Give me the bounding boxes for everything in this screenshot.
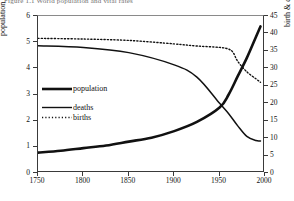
right-tick-mark-5 <box>264 155 268 156</box>
right-tick-mark-45 <box>264 15 268 16</box>
right-tick-label-30: 30 <box>270 63 286 72</box>
left-tick-mark-6 <box>33 15 37 16</box>
left-tick-label-5: 5 <box>16 37 30 46</box>
right-tick-mark-10 <box>264 137 268 138</box>
left-tick-mark-2 <box>33 120 37 121</box>
series-line-deaths <box>38 46 260 141</box>
plot-area <box>37 15 264 172</box>
x-tick-mark-1750 <box>37 172 38 176</box>
left-tick-label-1: 1 <box>16 141 30 150</box>
x-tick-mark-2000 <box>264 172 265 176</box>
right-tick-mark-30 <box>264 67 268 68</box>
right-tick-label-45: 45 <box>270 11 286 20</box>
right-tick-label-15: 15 <box>270 115 286 124</box>
right-tick-label-20: 20 <box>270 98 286 107</box>
left-tick-label-2: 2 <box>16 115 30 124</box>
left-tick-mark-4 <box>33 67 37 68</box>
right-tick-mark-35 <box>264 50 268 51</box>
x-tick-label-1750: 1750 <box>22 176 52 185</box>
right-tick-label-5: 5 <box>270 150 286 159</box>
legend-swatch-population <box>42 86 72 92</box>
x-tick-mark-1850 <box>128 172 129 176</box>
legend-label-population: population <box>73 84 107 93</box>
right-tick-mark-40 <box>264 32 268 33</box>
x-tick-label-1850: 1850 <box>113 176 143 185</box>
left-tick-mark-5 <box>33 41 37 42</box>
x-tick-label-1900: 1900 <box>158 176 188 185</box>
x-tick-label-1950: 1950 <box>204 176 234 185</box>
chart-figure: Figure 1.1 World population and vital ra… <box>0 0 294 201</box>
x-tick-label-1800: 1800 <box>67 176 97 185</box>
left-tick-mark-1 <box>33 146 37 147</box>
x-tick-mark-1800 <box>82 172 83 176</box>
right-tick-mark-20 <box>264 102 268 103</box>
x-tick-mark-1950 <box>219 172 220 176</box>
left-tick-label-6: 6 <box>16 11 30 20</box>
left-tick-label-4: 4 <box>16 63 30 72</box>
right-tick-label-40: 40 <box>270 28 286 37</box>
right-tick-label-35: 35 <box>270 45 286 54</box>
left-axis-label: population (in billions ) <box>0 0 7 52</box>
series-line-births <box>38 38 260 82</box>
x-tick-mark-1900 <box>173 172 174 176</box>
legend-label-deaths: deaths <box>73 103 93 112</box>
right-tick-label-25: 25 <box>270 80 286 89</box>
legend-label-births: births <box>73 113 91 122</box>
x-tick-label-2000: 2000 <box>249 176 279 185</box>
legend-swatch-births <box>42 115 72 120</box>
left-tick-label-3: 3 <box>16 89 30 98</box>
legend-swatch-deaths <box>42 105 72 110</box>
clipped-figure-caption: Figure 1.1 World population and vital ra… <box>4 0 244 5</box>
right-tick-mark-15 <box>264 120 268 121</box>
right-tick-mark-25 <box>264 85 268 86</box>
left-tick-mark-3 <box>33 94 37 95</box>
series-canvas <box>38 16 265 173</box>
right-tick-label-10: 10 <box>270 133 286 142</box>
